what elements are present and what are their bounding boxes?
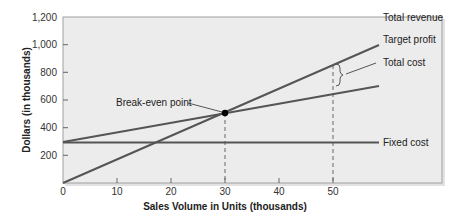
y-tick-200: 200 [40, 150, 57, 161]
y-tick-1200: 1,200 [32, 12, 57, 23]
break-even-chart: 1,200 1,000 800 600 400 200 0 10 20 30 4… [0, 0, 466, 220]
target-profit-label: Target profit [383, 34, 436, 45]
total-revenue-label: Total revenue [383, 12, 443, 23]
x-tick-30: 30 [219, 186, 231, 197]
x-tick-labels: 0 10 20 30 40 50 [60, 186, 339, 197]
x-tick-50: 50 [327, 186, 339, 197]
y-axis-title: Dollars (in thousands) [21, 47, 32, 153]
x-tick-10: 10 [111, 186, 123, 197]
y-tick-labels: 1,200 1,000 800 600 400 200 [32, 12, 57, 161]
y-tick-400: 400 [40, 122, 57, 133]
break-even-label: Break-even point [116, 97, 192, 108]
fixed-cost-label: Fixed cost [383, 137, 429, 148]
total-cost-label: Total cost [383, 57, 425, 68]
x-axis-title: Sales Volume in Units (thousands) [143, 201, 307, 212]
break-even-point-marker [222, 110, 228, 116]
x-tick-20: 20 [165, 186, 177, 197]
x-tick-40: 40 [273, 186, 285, 197]
x-tick-0: 0 [60, 186, 66, 197]
y-tick-1000: 1,000 [32, 39, 57, 50]
y-tick-800: 800 [40, 67, 57, 78]
y-tick-600: 600 [40, 94, 57, 105]
